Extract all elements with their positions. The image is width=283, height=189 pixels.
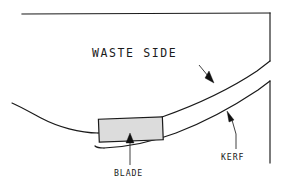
kerf-callout-group bbox=[227, 111, 236, 149]
kerf-diagram: WASTE SIDE KERF BLADE bbox=[0, 0, 283, 189]
kerf-leader-line bbox=[232, 120, 236, 149]
kerf-label: KERF bbox=[221, 152, 244, 162]
kerf-curve-upper-left bbox=[12, 103, 98, 133]
waste-side-arrow bbox=[199, 65, 214, 83]
kerf-curve-lower-left bbox=[95, 146, 104, 148]
waste-side-label: WASTE SIDE bbox=[92, 46, 177, 60]
blade-label: BLADE bbox=[114, 168, 143, 178]
waste-side-arrow-head bbox=[205, 71, 214, 83]
diagram-canvas: WASTE SIDE KERF BLADE bbox=[0, 0, 283, 189]
kerf-arrow-head bbox=[227, 111, 234, 122]
workpiece-top-edge bbox=[22, 13, 270, 14]
